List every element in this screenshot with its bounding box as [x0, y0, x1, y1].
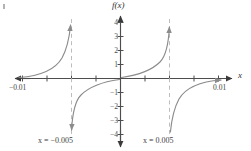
x-axis-label: x: [238, 70, 242, 80]
x-left-endpoint-label: −0.01: [9, 83, 26, 92]
x-right-endpoint-label: 0.01: [213, 83, 226, 92]
branch-left-upper: [19, 25, 71, 78]
y-tick-label-2: 2: [110, 46, 118, 55]
asymptote-left-label: x = −0.005: [38, 136, 73, 145]
axes-group: [15, 16, 232, 147]
function-graph-figure: f(x) x −0.01 0.01 4 3 2 1 −1 −2 −3 −4 x …: [0, 0, 251, 151]
y-tick-label-4: 4: [110, 18, 118, 27]
plot-canvas: [0, 0, 251, 151]
y-tick-label-neg4: −4: [106, 130, 118, 139]
y-axis-label: f(x): [112, 0, 125, 10]
y-tick-label-neg2: −2: [106, 102, 118, 111]
y-tick-label-neg1: −1: [106, 88, 118, 97]
branch-right-upper: [122, 27, 170, 78]
asymptote-right-label: x = 0.005: [143, 136, 174, 145]
y-tick-label-3: 3: [110, 32, 118, 41]
y-tick-label-neg3: −3: [106, 116, 118, 125]
y-tick-label-1: 1: [110, 60, 118, 69]
